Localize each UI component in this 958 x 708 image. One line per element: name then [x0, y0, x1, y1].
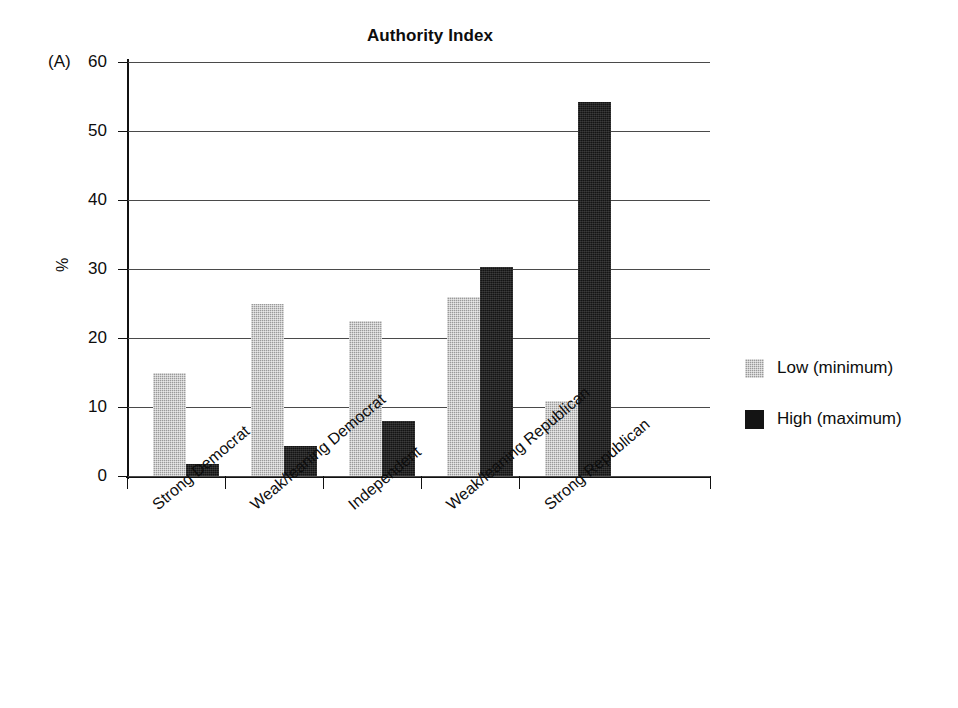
- gridline: [127, 476, 710, 477]
- chart-legend: Low (minimum) High (maximum): [745, 358, 902, 460]
- chart-title: Authority Index: [0, 26, 860, 46]
- x-tick: [710, 476, 711, 489]
- x-tick: [421, 476, 422, 489]
- y-tick-label: 40: [61, 191, 107, 208]
- legend-swatch-low-icon: [745, 359, 764, 378]
- x-tick: [225, 476, 226, 489]
- bar-low[interactable]: [251, 304, 284, 476]
- x-tick: [323, 476, 324, 489]
- chart-figure: Authority Index (A) % 0102030405060 Stro…: [0, 0, 958, 708]
- bar-low[interactable]: [153, 373, 186, 477]
- y-tick-label: 50: [61, 122, 107, 139]
- legend-item[interactable]: High (maximum): [745, 409, 902, 429]
- bar-low[interactable]: [447, 297, 480, 476]
- x-tick: [519, 476, 520, 489]
- y-tick-label: 10: [61, 398, 107, 415]
- x-tick: [127, 476, 128, 489]
- plot-area: [127, 62, 710, 476]
- y-tick-label: 0: [61, 467, 107, 484]
- legend-label-high: High (maximum): [777, 409, 902, 429]
- bars-layer: [127, 62, 710, 476]
- legend-swatch-high-icon: [745, 410, 764, 429]
- y-tick-label: 30: [61, 260, 107, 277]
- y-tick-label: 20: [61, 329, 107, 346]
- bar-high[interactable]: [578, 102, 611, 476]
- y-tick-label: 60: [61, 53, 107, 70]
- legend-label-low: Low (minimum): [777, 358, 893, 378]
- legend-item[interactable]: Low (minimum): [745, 358, 902, 378]
